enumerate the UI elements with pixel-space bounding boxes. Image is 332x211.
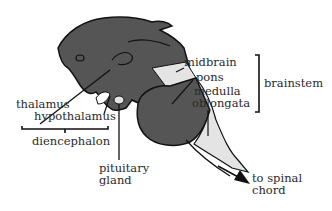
- label-medulla-line2: oblongata: [192, 97, 250, 109]
- label-diencephalon: diencephalon: [32, 135, 110, 147]
- label-spinal-line2: chord: [252, 184, 286, 196]
- label-pituitary-line2: gland: [99, 174, 132, 186]
- brain-diagram: thalamus hypothalamus diencephalon pitui…: [0, 0, 332, 211]
- diencephalon-bracket: [22, 126, 108, 133]
- brainstem-bracket: [255, 55, 259, 112]
- label-brainstem: brainstem: [264, 77, 323, 89]
- label-midbrain: midbrain: [184, 56, 237, 68]
- label-pons: pons: [196, 71, 224, 83]
- label-hypothalamus: hypothalamus: [34, 110, 116, 122]
